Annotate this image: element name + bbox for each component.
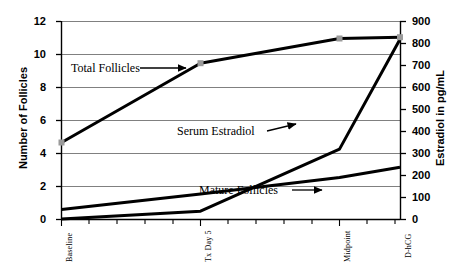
chart-container: Number of Follicles Estradiol in pg/mL 1… <box>0 0 462 267</box>
data-point-marker <box>397 34 403 40</box>
x-axis-label-d-hcg: D-hCG <box>404 233 413 258</box>
y-left-ticks <box>56 22 61 220</box>
annotation-label-mature-follicles: Mature Follicles <box>199 183 278 198</box>
annotation-arrow-serum-estradiol <box>267 124 296 131</box>
x-axis-label-baseline: Baseline <box>65 233 74 262</box>
data-point-marker <box>59 140 65 146</box>
annotation-label-total-follicles: Total Follicles <box>71 61 140 76</box>
gridlines <box>61 22 400 187</box>
data-point-marker <box>198 60 204 66</box>
x-axis-label-tx-day-5: Tx Day 5 <box>204 230 213 262</box>
annotation-label-serum-estradiol: Serum Estradiol <box>177 124 255 139</box>
data-point-marker <box>337 36 343 42</box>
x-axis-ticks <box>62 220 396 226</box>
x-axis-label-midpoint: Midpoint <box>343 231 352 262</box>
